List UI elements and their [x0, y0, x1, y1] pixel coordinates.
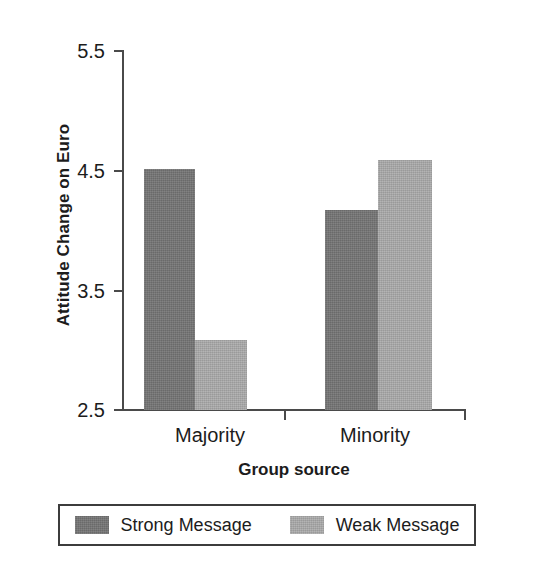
y-tick-label-4-5: 4.5	[77, 160, 105, 183]
bar-minority-weak-message	[378, 160, 432, 410]
y-tick-label-3-5: 3.5	[77, 280, 105, 303]
y-tick-label-5-5: 5.5	[77, 40, 105, 63]
bar-majority-strong-message	[144, 169, 195, 410]
y-tick-label-2-5: 2.5	[77, 399, 105, 422]
x-category-label-majority: Majority	[135, 424, 285, 447]
bar-minority-strong-message	[325, 210, 378, 410]
legend-swatch-strong-message	[75, 516, 109, 534]
legend-label-weak-message: Weak Message	[336, 515, 460, 536]
legend-swatch-weak-message	[290, 516, 324, 534]
x-category-label-minority: Minority	[300, 424, 450, 447]
x-tick-end	[464, 411, 466, 420]
x-axis-title: Group source	[122, 460, 466, 480]
legend-item-weak-message: Weak Message	[290, 515, 460, 536]
chart-legend: Strong Message Weak Message	[58, 504, 476, 546]
bar-chart-figure: Attitude Change on Euro 5.5 4.5 3.5 2.5 …	[0, 0, 535, 570]
legend-label-strong-message: Strong Message	[121, 515, 252, 536]
bar-majority-weak-message	[195, 340, 247, 410]
y-axis-title: Attitude Change on Euro	[54, 75, 74, 375]
legend-item-strong-message: Strong Message	[75, 515, 252, 536]
x-tick-separator	[284, 411, 286, 420]
plot-area	[122, 50, 465, 410]
